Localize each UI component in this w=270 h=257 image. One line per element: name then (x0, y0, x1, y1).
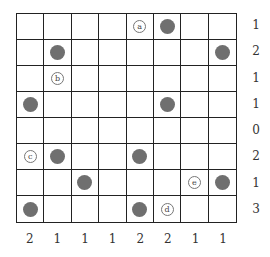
grid-cell[interactable] (99, 118, 126, 144)
grid-cell[interactable] (44, 144, 71, 170)
grid-cell[interactable] (154, 40, 181, 66)
grid-cell[interactable] (44, 170, 71, 196)
filled-circle-icon (215, 45, 230, 60)
grid-cell[interactable] (99, 170, 126, 196)
grid-cell[interactable] (209, 66, 236, 92)
grid-cell[interactable] (44, 118, 71, 144)
filled-circle-icon (215, 175, 230, 190)
grid-cell[interactable] (209, 170, 236, 196)
row-clue: 1 (250, 97, 262, 111)
grid-cell[interactable] (127, 40, 154, 66)
filled-circle-icon (160, 97, 175, 112)
grid-cell[interactable] (72, 170, 99, 196)
row-clue: 1 (250, 71, 262, 85)
grid-cell[interactable] (17, 196, 44, 222)
column-clue: 2 (127, 232, 154, 246)
grid-cell[interactable] (72, 92, 99, 118)
grid-cell[interactable] (44, 196, 71, 222)
grid-cell[interactable]: d (154, 196, 181, 222)
grid-cell[interactable] (127, 118, 154, 144)
grid-cell[interactable] (72, 144, 99, 170)
filled-circle-icon (23, 97, 38, 112)
grid-cell[interactable] (17, 118, 44, 144)
column-clue: 1 (72, 232, 99, 246)
grid-cell[interactable]: b (44, 66, 71, 92)
row-clue: 2 (250, 149, 262, 163)
filled-circle-icon (50, 45, 65, 60)
row-clue: 1 (250, 176, 262, 190)
filled-circle-icon (77, 175, 92, 190)
filled-circle-icon (50, 149, 65, 164)
grid-cell[interactable]: a (127, 14, 154, 40)
grid-cell[interactable] (154, 14, 181, 40)
grid-cell[interactable] (99, 92, 126, 118)
column-clue: 2 (154, 232, 181, 246)
puzzle-grid: abced (16, 13, 237, 223)
grid-cell[interactable] (154, 118, 181, 144)
column-clue: 1 (182, 232, 209, 246)
grid-cell[interactable] (127, 170, 154, 196)
column-clue: 1 (44, 232, 71, 246)
grid-cell[interactable] (17, 14, 44, 40)
grid-cell[interactable]: c (17, 144, 44, 170)
grid-cell[interactable] (99, 144, 126, 170)
grid-cell[interactable] (209, 196, 236, 222)
grid-cell[interactable] (181, 40, 208, 66)
grid-cell[interactable] (99, 66, 126, 92)
grid-cell[interactable] (17, 66, 44, 92)
row-clue: 2 (250, 44, 262, 58)
grid-cell[interactable] (72, 118, 99, 144)
cell-label: b (51, 72, 64, 85)
grid-cell[interactable] (209, 118, 236, 144)
grid-cell[interactable] (181, 66, 208, 92)
cell-label: e (188, 176, 201, 189)
filled-circle-icon (160, 19, 175, 34)
column-clue: 2 (16, 232, 43, 246)
grid-cell[interactable] (99, 40, 126, 66)
grid-cell[interactable] (209, 144, 236, 170)
grid-cell[interactable]: e (181, 170, 208, 196)
grid-cell[interactable] (17, 92, 44, 118)
grid-cell[interactable] (99, 196, 126, 222)
grid-cell[interactable] (127, 92, 154, 118)
grid-cell[interactable] (44, 92, 71, 118)
cell-label: a (133, 20, 146, 33)
grid-cell[interactable] (72, 196, 99, 222)
grid-cell[interactable] (181, 118, 208, 144)
filled-circle-icon (23, 202, 38, 217)
cell-label: c (24, 150, 37, 163)
grid-cell[interactable] (72, 14, 99, 40)
grid-cell[interactable] (127, 144, 154, 170)
grid-cell[interactable] (127, 66, 154, 92)
filled-circle-icon (132, 149, 147, 164)
cell-label: d (161, 203, 174, 216)
column-clue: 1 (99, 232, 126, 246)
grid-cell[interactable] (44, 40, 71, 66)
grid-cell[interactable] (72, 40, 99, 66)
grid-cell[interactable] (154, 170, 181, 196)
grid-cell[interactable] (181, 196, 208, 222)
grid-cell[interactable] (209, 14, 236, 40)
grid-cell[interactable] (17, 170, 44, 196)
grid-cell[interactable] (209, 40, 236, 66)
grid-cell[interactable] (127, 196, 154, 222)
column-clue: 1 (210, 232, 237, 246)
grid-cell[interactable] (154, 66, 181, 92)
grid-cell[interactable] (17, 40, 44, 66)
filled-circle-icon (132, 202, 147, 217)
grid-cell[interactable] (72, 66, 99, 92)
grid-cell[interactable] (181, 92, 208, 118)
row-clue: 0 (250, 123, 262, 137)
grid-cell[interactable] (154, 144, 181, 170)
grid-cell[interactable] (154, 92, 181, 118)
row-clue: 3 (250, 202, 262, 216)
grid-cell[interactable] (181, 14, 208, 40)
grid-cell[interactable] (99, 14, 126, 40)
grid-cell[interactable] (44, 14, 71, 40)
row-clue: 1 (250, 18, 262, 32)
grid-cell[interactable] (209, 92, 236, 118)
grid-cell[interactable] (181, 144, 208, 170)
